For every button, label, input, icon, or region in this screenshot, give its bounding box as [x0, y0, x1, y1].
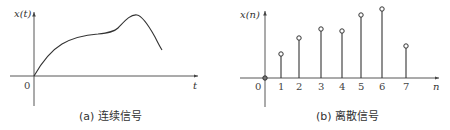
tick-6: 6 [379, 82, 385, 92]
signal-curve [34, 15, 162, 76]
continuous-signal-panel: x(t) t 0 (a) 连续信号 [0, 0, 225, 130]
origin-label: 0 [24, 81, 30, 91]
caption-a: (a) 连续信号 [79, 111, 142, 122]
tick-5: 5 [358, 82, 364, 92]
tick-1: 1 [278, 82, 284, 92]
stems [281, 11, 406, 78]
caption-b: (b) 离散信号 [316, 111, 379, 122]
y-axis-label: x(t) [14, 9, 31, 19]
tick-0: 0 [255, 82, 261, 92]
tick-3: 3 [318, 82, 324, 92]
x-axis-label: t [193, 81, 197, 91]
tick-7: 7 [403, 82, 409, 92]
x-axis-label: n [433, 82, 439, 92]
tick-2: 2 [296, 82, 302, 92]
stem-markers [263, 7, 408, 80]
tick-4: 4 [339, 82, 345, 92]
discrete-signal-panel: x(n) n 0 1 2 3 4 5 6 7 (b) 离散信号 [225, 0, 450, 130]
y-axis-label: x(n) [240, 10, 260, 20]
